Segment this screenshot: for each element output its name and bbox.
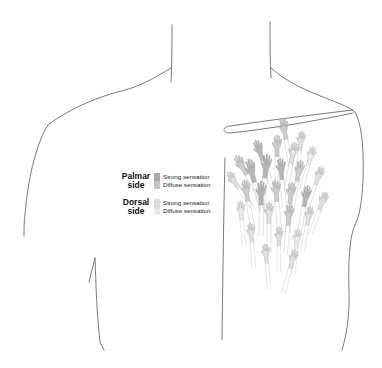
legend-side-label: Palmar side xyxy=(118,172,154,189)
legend-swatch-palmar-diffuse xyxy=(154,181,160,189)
midline-outline xyxy=(222,158,225,340)
legend-entry-dorsal-diffuse: Diffuse sensation xyxy=(163,207,210,215)
legend-side-line2: side xyxy=(118,181,154,190)
hand-markers xyxy=(224,117,330,294)
neck-right-outline xyxy=(270,22,271,78)
legend-swatch-dorsal-diffuse xyxy=(154,207,160,215)
left-torso-outline xyxy=(89,258,104,350)
legend-group-dorsal: Dorsal side Strong sensation Diffuse sen… xyxy=(118,198,218,220)
legend-swatch-palmar-strong xyxy=(154,173,160,181)
legend-entry-dorsal-strong: Strong sensation xyxy=(163,199,209,207)
legend-side-label: Dorsal side xyxy=(118,198,154,215)
legend: Palmar side Strong sensation Diffuse sen… xyxy=(118,172,218,230)
legend-entry-palmar-strong: Strong sensation xyxy=(163,173,209,181)
legend-group-palmar: Palmar side Strong sensation Diffuse sen… xyxy=(118,172,218,194)
hand-marker xyxy=(246,223,259,269)
hand-marker xyxy=(236,201,249,247)
legend-side-line2: side xyxy=(118,207,154,216)
hand-marker xyxy=(274,227,283,272)
legend-entry-palmar-diffuse: Diffuse sensation xyxy=(163,181,210,189)
hand-marker xyxy=(279,248,299,294)
legend-swatch-dorsal-strong xyxy=(154,199,160,207)
arm-band-outline xyxy=(224,110,353,133)
hand-marker xyxy=(281,204,295,255)
hand-marker xyxy=(261,244,274,290)
neck-left-outline xyxy=(171,25,172,82)
